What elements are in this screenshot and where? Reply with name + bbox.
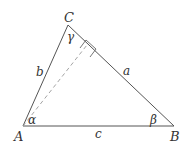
side-label-c: c xyxy=(95,127,102,141)
vertex-label-a: A xyxy=(13,129,23,144)
side-label-a: a xyxy=(123,64,130,78)
triangle-abc xyxy=(23,25,174,126)
side-label-b: b xyxy=(36,65,44,79)
vertex-label-b: B xyxy=(169,129,180,144)
angle-label-alpha: α xyxy=(28,113,36,127)
angle-label-gamma: γ xyxy=(67,30,75,44)
triangle-diagram: C A B b a c α β γ xyxy=(0,0,190,154)
vertex-label-c: C xyxy=(64,10,74,25)
angle-label-beta: β xyxy=(149,113,157,127)
right-angle-marker xyxy=(80,40,96,57)
